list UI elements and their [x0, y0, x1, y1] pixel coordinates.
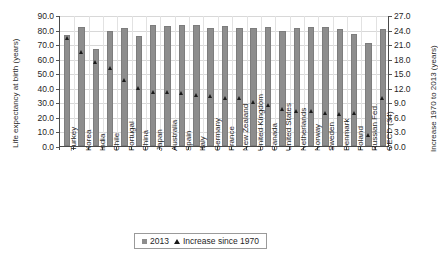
y-tick-label-right: 0.0 — [394, 142, 426, 152]
legend-label-increase: Increase since 1970 — [183, 236, 259, 246]
y-tick-label-left: 70.0 — [24, 40, 54, 50]
y-tick-label-left: 10.0 — [24, 127, 54, 137]
vertical-gridline — [160, 16, 161, 146]
legend-item-increase: Increase since 1970 — [174, 236, 259, 246]
x-category-label: Turkey — [69, 127, 78, 151]
y-tick-label-left: 30.0 — [24, 98, 54, 108]
y-tick-label-left: 20.0 — [24, 113, 54, 123]
y-tick-label-left: 0.0 — [24, 142, 54, 152]
x-category-label: New Zealand — [241, 104, 250, 151]
bar — [193, 25, 199, 146]
data-point-marker — [151, 90, 155, 94]
data-point-marker — [352, 111, 356, 115]
y-tick-label-right: 21.0 — [394, 40, 426, 50]
data-point-marker — [337, 112, 341, 116]
triangle-marker-icon — [174, 239, 180, 244]
chart-legend: 2013 Increase since 1970 — [134, 233, 267, 249]
data-point-marker — [266, 103, 270, 107]
gridline — [60, 16, 388, 17]
y-tick-label-left: 50.0 — [24, 69, 54, 79]
y-tick-mark-right — [389, 31, 392, 32]
plot-area — [59, 16, 389, 147]
data-point-marker — [165, 90, 169, 94]
x-category-label: Australia — [170, 120, 179, 151]
data-point-marker — [251, 100, 255, 104]
x-category-label: Norway — [313, 124, 322, 151]
data-point-marker — [179, 91, 183, 95]
bar — [179, 25, 185, 146]
vertical-gridline — [189, 16, 190, 146]
square-marker-icon — [142, 239, 147, 244]
vertical-gridline — [117, 16, 118, 146]
x-category-label: Germany — [213, 118, 222, 151]
y-tick-label-left: 60.0 — [24, 55, 54, 65]
x-category-label: Netherlands — [299, 108, 308, 151]
y-tick-label-right: 3.0 — [394, 127, 426, 137]
x-category-label: United States — [284, 103, 293, 151]
data-point-marker — [108, 66, 112, 70]
x-category-label: Denmark — [342, 119, 351, 151]
x-category-label: OECD (34) — [385, 111, 394, 151]
legend-label-2013: 2013 — [150, 236, 169, 246]
vertical-gridline — [203, 16, 204, 146]
x-category-label: Korea — [84, 130, 93, 151]
y-tick-label-left: 90.0 — [24, 11, 54, 21]
x-category-label: France — [227, 126, 236, 151]
data-point-marker — [294, 109, 298, 113]
x-category-label: Poland — [356, 126, 365, 151]
y-tick-label-right: 18.0 — [394, 55, 426, 65]
x-category-label: Spain — [184, 131, 193, 151]
data-point-marker — [380, 96, 384, 100]
vertical-gridline — [103, 16, 104, 146]
y-tick-mark-right — [389, 45, 392, 46]
y-tick-label-right: 9.0 — [394, 98, 426, 108]
x-category-label: Canada — [270, 123, 279, 151]
y-tick-mark-right — [389, 16, 392, 17]
legend-item-2013: 2013 — [142, 236, 169, 246]
bar — [107, 31, 113, 146]
bar — [78, 27, 84, 146]
y-axis-right-title: Increase 1970 to 2013 (years) — [429, 45, 438, 152]
data-point-marker — [309, 109, 313, 113]
y-tick-mark-right — [389, 74, 392, 75]
x-category-label: Sweden — [327, 122, 336, 151]
data-point-marker — [194, 93, 198, 97]
y-tick-label-right: 27.0 — [394, 11, 426, 21]
x-category-label: Russian Fed. — [370, 104, 379, 151]
x-category-label: Italy — [198, 136, 207, 151]
vertical-gridline — [146, 16, 147, 146]
data-point-marker — [93, 60, 97, 64]
y-tick-label-right: 24.0 — [394, 26, 426, 36]
x-category-label: India — [98, 134, 107, 151]
x-category-label: Portugal — [127, 121, 136, 151]
y-tick-label-left: 80.0 — [24, 26, 54, 36]
bar — [150, 25, 156, 146]
data-point-marker — [237, 96, 241, 100]
x-category-label: United Kingdom — [256, 94, 265, 151]
y-tick-mark-right — [389, 103, 392, 104]
y-axis-left-title: Life expectancy at birth (years) — [11, 39, 20, 148]
x-tick-mark — [59, 147, 60, 150]
x-category-label: Chile — [112, 133, 121, 151]
y-tick-label-left: 40.0 — [24, 84, 54, 94]
data-point-marker — [122, 78, 126, 82]
data-point-marker — [223, 96, 227, 100]
data-point-marker — [323, 111, 327, 115]
data-point-marker — [79, 50, 83, 54]
y-tick-label-right: 15.0 — [394, 69, 426, 79]
y-tick-mark-right — [389, 89, 392, 90]
vertical-gridline — [89, 16, 90, 146]
x-category-label: China — [141, 130, 150, 151]
data-point-marker — [65, 36, 69, 40]
y-tick-mark-right — [389, 60, 392, 61]
data-point-marker — [136, 86, 140, 90]
y-tick-label-right: 6.0 — [394, 113, 426, 123]
x-category-label: Japan — [155, 129, 164, 151]
data-point-marker — [208, 94, 212, 98]
y-tick-label-right: 12.0 — [394, 84, 426, 94]
